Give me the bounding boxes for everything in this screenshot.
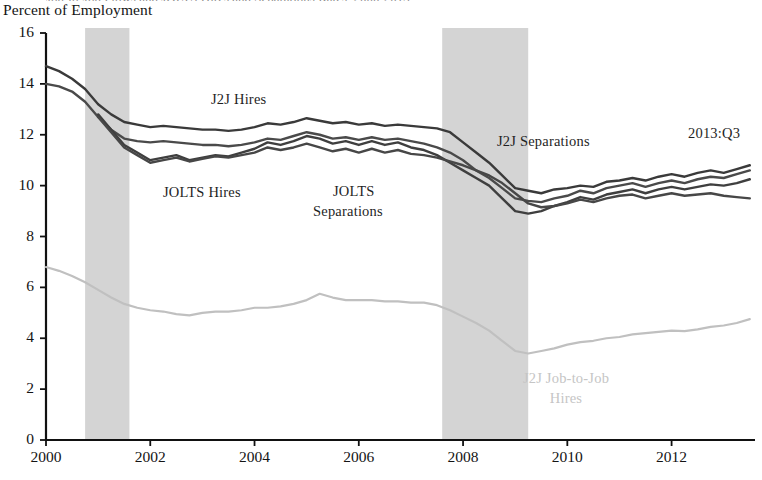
jolts-separations-label-line1: JOLTS (333, 183, 375, 200)
j2j-job-to-job-hires-label-line2: Hires (476, 390, 656, 407)
y-tick-label: 12 (0, 125, 34, 143)
x-tick-label: 2004 (227, 448, 283, 466)
x-tick-label: 2006 (331, 448, 387, 466)
chart-figure: Job-to-Job Flows and JOLTS Hires and Sep… (0, 0, 762, 480)
series-layer (46, 66, 750, 353)
recession-shading-layer (85, 28, 528, 440)
x-tick-label: 2008 (435, 448, 491, 466)
y-tick-label: 16 (0, 23, 34, 41)
y-tick-label: 10 (0, 176, 34, 194)
j2j-separations-label: J2J Separations (497, 133, 590, 150)
date-stamp-label: 2013:Q3 (688, 125, 740, 142)
y-tick-label: 2 (0, 379, 34, 397)
y-tick-label: 14 (0, 74, 34, 92)
j2j-hires-label: J2J Hires (211, 91, 266, 108)
plot-area (0, 0, 762, 480)
recession-2001 (85, 28, 129, 440)
jolts-hires-label: JOLTS Hires (163, 184, 241, 201)
x-tick-label: 2010 (539, 448, 595, 466)
j2j-job-to-job-hires-label-line1: J2J Job-to-Job (476, 370, 656, 387)
series-line-j2j-job-to-job-hires (46, 267, 750, 353)
y-tick-label: 0 (0, 430, 34, 448)
x-tick-label: 2002 (122, 448, 178, 466)
y-tick-label: 4 (0, 328, 34, 346)
y-tick-label: 6 (0, 277, 34, 295)
x-tick-label: 2000 (18, 448, 74, 466)
y-tick-label: 8 (0, 227, 34, 245)
series-line-j2j-hires (46, 66, 750, 193)
jolts-separations-label-line2: Separations (313, 203, 383, 220)
x-tick-label: 2012 (644, 448, 700, 466)
